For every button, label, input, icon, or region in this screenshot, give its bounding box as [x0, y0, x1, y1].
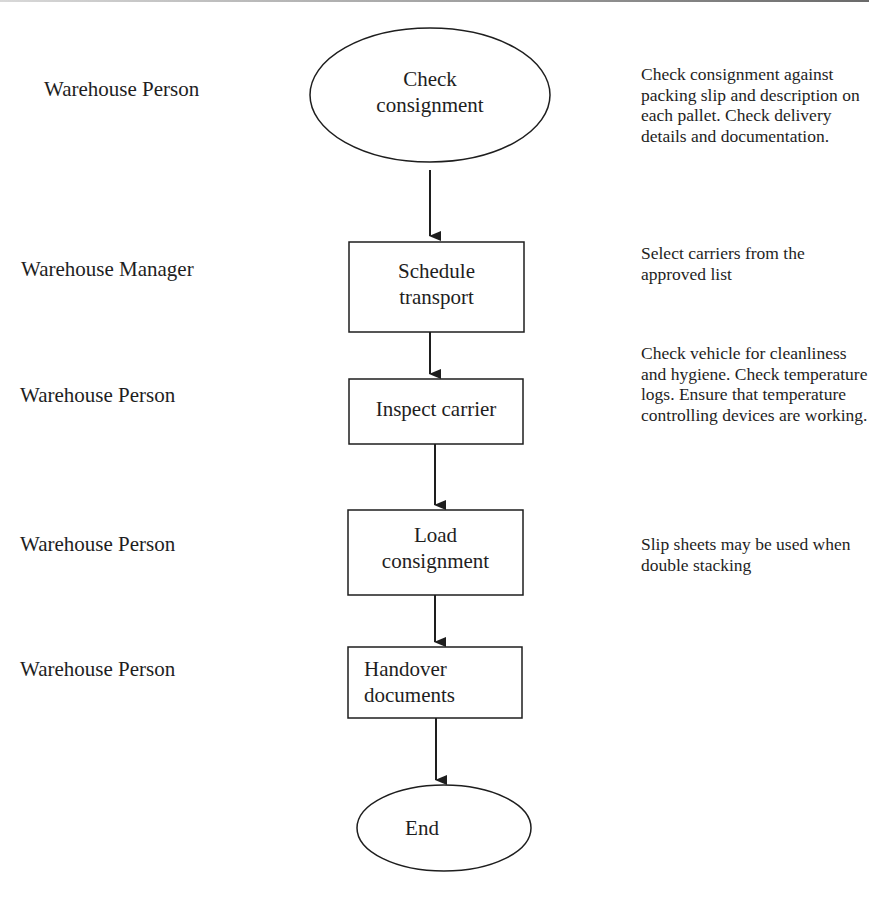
- node-label-line1: Schedule: [349, 258, 524, 284]
- note-check-consignment: Check consignment against packing slip a…: [641, 64, 869, 146]
- node-label-end: End: [357, 815, 487, 841]
- role-label-load: Warehouse Person: [20, 532, 175, 556]
- node-label-line1: Check: [330, 66, 530, 92]
- node-label-schedule-transport: Schedule transport: [349, 258, 524, 310]
- node-label-line1: Load: [348, 522, 523, 548]
- node-label-line1: End: [357, 815, 487, 841]
- note-schedule-transport: Select carriers from the approved list: [641, 243, 841, 284]
- node-label-inspect-carrier: Inspect carrier: [349, 396, 523, 422]
- node-label-load-consignment: Load consignment: [348, 522, 523, 574]
- role-label-inspect: Warehouse Person: [20, 383, 175, 407]
- node-label-line2: transport: [349, 284, 524, 310]
- node-label-check-consignment: Check consignment: [330, 66, 530, 118]
- node-label-handover-documents: Handover documents: [364, 656, 514, 708]
- node-label-line1: Inspect carrier: [349, 396, 523, 422]
- role-label-schedule: Warehouse Manager: [21, 257, 194, 281]
- role-label-check: Warehouse Person: [44, 77, 199, 101]
- node-label-line2: consignment: [330, 92, 530, 118]
- note-load-consignment: Slip sheets may be used when double stac…: [641, 534, 851, 575]
- note-inspect-carrier: Check vehicle for cleanliness and hygien…: [641, 343, 869, 425]
- node-label-line1: Handover: [364, 656, 514, 682]
- node-label-line2: documents: [364, 682, 514, 708]
- role-label-handover: Warehouse Person: [20, 657, 175, 681]
- node-label-line2: consignment: [348, 548, 523, 574]
